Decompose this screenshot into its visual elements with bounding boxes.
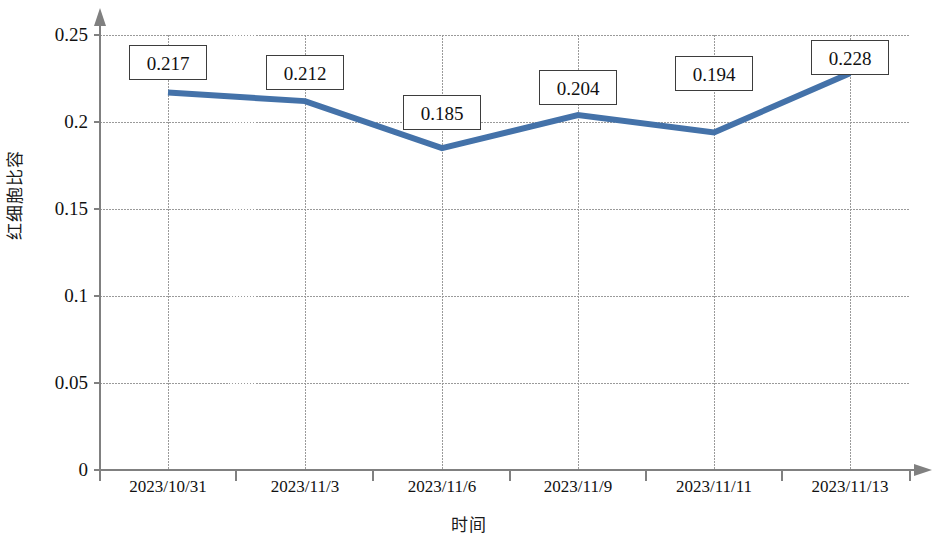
line-chart: 红细胞比容 时间 00.050.10.150.20.25 2023/10/312… <box>0 0 938 539</box>
data-point-label: 0.194 <box>675 56 753 91</box>
data-point-label: 0.217 <box>129 45 207 80</box>
data-point-label: 0.212 <box>266 55 344 90</box>
data-point-label: 0.228 <box>811 40 889 75</box>
plot-area <box>0 0 938 539</box>
data-point-label: 0.185 <box>403 95 481 130</box>
data-point-label: 0.204 <box>539 70 617 105</box>
